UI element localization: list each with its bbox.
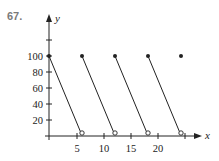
svg-text:80: 80 — [33, 67, 44, 78]
y-tick-labels: 20 40 60 80 100 — [27, 51, 43, 126]
y-axis-label: y — [54, 12, 60, 24]
x-axis-arrow-icon — [194, 133, 202, 139]
svg-text:40: 40 — [33, 99, 44, 110]
svg-text:20: 20 — [153, 143, 164, 154]
segment-2 — [82, 56, 114, 133]
y-axis-arrow-icon — [46, 14, 52, 22]
svg-text:5: 5 — [74, 143, 79, 154]
closed-points — [47, 54, 183, 58]
segment-1 — [49, 56, 81, 133]
svg-text:10: 10 — [99, 143, 110, 154]
segment-3 — [115, 56, 147, 133]
sawtooth-segments — [49, 56, 180, 133]
segment-4 — [148, 56, 180, 133]
svg-text:15: 15 — [126, 143, 137, 154]
x-tick-labels: 5 10 15 20 — [74, 143, 163, 154]
svg-text:20: 20 — [33, 115, 44, 126]
svg-text:60: 60 — [33, 83, 44, 94]
x-axis-label: x — [204, 129, 210, 141]
svg-text:100: 100 — [27, 51, 43, 62]
sawtooth-chart: y x 20 40 60 80 100 5 10 15 20 — [0, 0, 219, 161]
